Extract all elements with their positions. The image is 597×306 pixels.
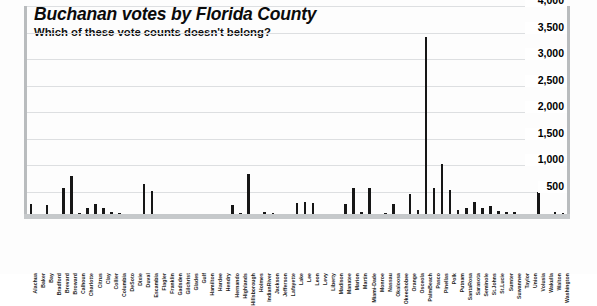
bar xyxy=(247,174,250,218)
baseline-band xyxy=(24,214,570,219)
x-axis-label: Manatee xyxy=(347,273,352,294)
x-axis-label: Duval xyxy=(146,273,151,287)
y-tick-label: 2,000 xyxy=(538,101,564,111)
x-axis-label: DeSoto xyxy=(130,273,135,291)
x-axis-label: Lafayette xyxy=(291,273,296,296)
y-tick-label: 500 xyxy=(546,181,564,191)
x-axis-label: Pasco xyxy=(436,273,441,289)
x-axis-label: Okaloosa xyxy=(396,273,401,297)
x-axis-label: Sarasota xyxy=(476,273,481,295)
x-axis-label: Putnam xyxy=(460,273,465,292)
x-axis-label: Lee xyxy=(307,273,312,282)
bar xyxy=(143,184,146,218)
x-axis-label: Charlotte xyxy=(89,273,94,296)
x-axis-label: Union xyxy=(533,273,538,288)
x-axis-label: Gadsden xyxy=(178,273,183,296)
x-axis-label: Seminole xyxy=(484,273,489,296)
x-axis-label: Glades xyxy=(194,273,199,291)
x-axis-label: Orange xyxy=(412,273,417,291)
x-axis-label: Sumter xyxy=(509,273,514,291)
x-axis-label: Martin xyxy=(363,273,368,289)
bar xyxy=(441,164,444,218)
x-axis-label: Pinellas xyxy=(444,273,449,293)
x-axis-label: Baker xyxy=(41,273,46,288)
x-axis-label: Highlands xyxy=(243,273,248,299)
x-axis-label: Volusia xyxy=(541,273,546,291)
x-axis-label: Citrus xyxy=(98,273,103,288)
x-axis-label: Brevard xyxy=(65,273,70,293)
y-tick-label: 3,500 xyxy=(538,22,564,32)
y-tick-label: 1,500 xyxy=(538,128,564,138)
x-axis-label: Madison xyxy=(339,273,344,294)
x-axis-label: Osceola xyxy=(420,273,425,294)
x-axis-label: Lake xyxy=(299,273,304,285)
y-tick-label: 3,000 xyxy=(538,48,564,58)
x-axis-label: Clay xyxy=(106,273,111,284)
x-axis-label: Calhoun xyxy=(81,273,86,294)
x-axis-label: Collier xyxy=(114,273,119,290)
x-axis-label: IndianRiver xyxy=(267,273,272,302)
x-axis-label: Marion xyxy=(355,273,360,290)
x-axis-label: St.Johns xyxy=(492,273,497,295)
x-axis-label: Gulf xyxy=(202,273,207,284)
x-axis-label: Columbia xyxy=(122,273,127,297)
x-axis-label: Liberty xyxy=(331,273,336,291)
x-axis-label: Polk xyxy=(452,273,457,284)
x-axis-label: Bradford xyxy=(57,273,62,295)
x-axis-label: Suwannee xyxy=(517,273,522,299)
x-axis-label: Monroe xyxy=(380,273,385,292)
x-axis-label: Hamilton xyxy=(210,273,215,296)
x-axis-label: Miami-Dade xyxy=(372,273,377,303)
x-axis-label: Broward xyxy=(73,273,78,294)
bar-series xyxy=(27,6,567,218)
plot-area: 5001,0001,5002,0002,5003,0003,5004,000 xyxy=(27,6,567,218)
x-axis-label: St.Lucie xyxy=(500,273,505,294)
x-axis-label: Wakulla xyxy=(549,273,554,293)
x-axis-label: Holmes xyxy=(259,273,264,292)
right-axis-rule xyxy=(567,6,570,218)
x-axis-label: Walton xyxy=(557,273,562,290)
x-axis-label: Alachua xyxy=(33,273,38,294)
x-axis-label: Flagler xyxy=(162,273,167,290)
x-axis-label: Nassau xyxy=(388,273,393,292)
x-axis-label: PalmBeach xyxy=(428,273,433,301)
bar xyxy=(425,37,428,218)
x-axis-label: Escambia xyxy=(154,273,159,298)
x-axis-label: Bay xyxy=(49,273,54,283)
x-axis-label: Hardee xyxy=(218,273,223,291)
y-tick-label: 2,500 xyxy=(538,75,564,85)
x-axis-label: Franklin xyxy=(170,273,175,294)
x-axis-label: Leon xyxy=(315,273,320,286)
x-axis-label: SantaRosa xyxy=(468,273,473,300)
y-tick-label: 1,000 xyxy=(538,154,564,164)
x-axis-label: Hendry xyxy=(226,273,231,291)
x-axis-labels: AlachuaBakerBayBradfordBrevardBrowardCal… xyxy=(27,221,567,274)
x-axis-label: Jackson xyxy=(275,273,280,294)
x-axis-label: Gilchrist xyxy=(186,273,191,295)
x-axis-label: Jefferson xyxy=(283,273,288,297)
y-tick-label: 4,000 xyxy=(538,0,564,5)
x-axis-label: Hillsborough xyxy=(251,273,256,306)
x-axis-label: Taylor xyxy=(525,273,530,289)
x-axis-label: Washington xyxy=(565,273,570,303)
bar xyxy=(70,176,73,218)
x-axis-label: Levy xyxy=(323,273,328,285)
x-axis-label: Dixie xyxy=(138,273,143,286)
x-axis-label: Okeechobee xyxy=(404,273,409,304)
x-axis-label: Hernando xyxy=(235,273,240,298)
